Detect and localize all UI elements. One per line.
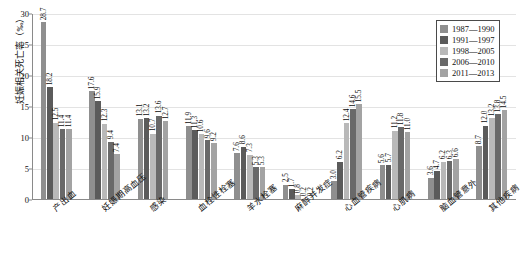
y-axis-line <box>32 14 33 200</box>
bar: 11.9 <box>186 126 192 200</box>
bar-value-label: 15.9 <box>94 87 101 100</box>
bar: 13.6 <box>156 116 162 200</box>
y-tick-label: 15 <box>21 102 33 112</box>
legend-label: 1991—1997 <box>452 36 495 45</box>
bar: 11.8 <box>398 127 404 200</box>
bar: 6.2 <box>337 162 343 200</box>
bar: 13.2 <box>489 118 495 200</box>
legend-item: 2006—2010 <box>440 57 495 67</box>
bar: 7.6 <box>234 153 240 200</box>
bar: 28.7 <box>41 22 47 200</box>
legend-item: 1991—1997 <box>440 35 495 45</box>
bar-group: 28.718.212.511.411.4 <box>32 14 80 200</box>
bar: 13.8 <box>495 114 501 200</box>
bar-group: 7.68.67.35.35.3 <box>226 14 274 200</box>
bar-group: 2.51.70.80.20.2 <box>274 14 322 200</box>
bar: 5.7 <box>386 165 392 200</box>
legend-item: 1987—1990 <box>440 24 495 34</box>
bar-value-label: 13.2 <box>142 103 149 116</box>
y-tick-label: 10 <box>21 133 33 143</box>
legend-item: 2011—2013 <box>440 68 495 78</box>
y-tick-label: 0 <box>25 195 32 205</box>
bar-group: 17.615.912.39.47.4 <box>80 14 128 200</box>
bar: 4.7 <box>434 171 440 200</box>
bar-value-label: 14.5 <box>500 95 507 108</box>
bar: 8.6 <box>241 147 247 200</box>
legend-label: 1998—2005 <box>452 47 495 56</box>
y-tick-label: 30 <box>21 9 33 19</box>
legend-swatch <box>440 36 448 44</box>
bar-group: 11.911.310.69.69.2 <box>177 14 225 200</box>
legend-item: 1998—2005 <box>440 46 495 56</box>
bar-value-label: 15.5 <box>355 89 362 102</box>
bar-value-label: 6.2 <box>336 150 343 159</box>
bar-value-label: 12.7 <box>161 106 168 119</box>
bar: 12.7 <box>163 121 169 200</box>
bar-value-label: 11.0 <box>403 117 410 130</box>
bar: 3.6 <box>428 178 434 200</box>
bar-value-label: 10.7 <box>149 119 156 132</box>
legend-swatch <box>440 58 448 66</box>
bar: 14.6 <box>350 109 356 200</box>
bar-value-label: 5.7 <box>384 154 391 163</box>
legend-label: 1987—1990 <box>452 25 495 34</box>
bar-value-label: 6.6 <box>452 148 459 157</box>
bar: 10.7 <box>150 134 156 200</box>
bar-value-label: 8.7 <box>475 135 482 144</box>
bar: 18.2 <box>47 87 53 200</box>
bar-value-label: 11.4 <box>64 115 71 128</box>
bar: 17.6 <box>89 91 95 200</box>
y-tick-label: 5 <box>25 164 32 174</box>
bar-group: 5.65.711.211.811.0 <box>371 14 419 200</box>
bar-value-label: 4.7 <box>433 160 440 169</box>
bar: 11.2 <box>392 131 398 200</box>
bar-value-label: 9.4 <box>107 131 114 140</box>
bar: 10.6 <box>199 134 205 200</box>
y-tick-label: 25 <box>21 40 33 50</box>
bar: 12.4 <box>344 123 350 200</box>
bar: 13.1 <box>138 119 144 200</box>
y-axis-title: 妊娠相关死亡率（‰） <box>13 0 26 134</box>
bar: 12.5 <box>53 123 59 201</box>
legend-label: 2006—2010 <box>452 58 495 67</box>
legend-swatch <box>440 69 448 77</box>
bar-value-label: 5.3 <box>258 156 265 165</box>
bar-group: 3.06.212.414.615.5 <box>322 14 370 200</box>
bar-value-label: 7.4 <box>113 143 120 152</box>
bar-value-label: 28.7 <box>39 7 46 20</box>
bar: 12.0 <box>483 126 489 200</box>
bar: 6.2 <box>441 162 447 200</box>
bar-value-label: 7.3 <box>245 144 252 153</box>
bar-value-label: 12.3 <box>100 109 107 122</box>
y-tick-label: 20 <box>21 71 33 81</box>
bar: 11.3 <box>192 130 198 200</box>
bar: 11.4 <box>60 129 66 200</box>
bar-value-label: 9.2 <box>210 132 217 141</box>
bar-value-label: 12.4 <box>342 108 349 121</box>
pregnancy-mortality-bar-chart: 妊娠相关死亡率（‰） 28.718.212.511.411.417.615.91… <box>0 0 526 272</box>
legend-swatch <box>440 25 448 33</box>
bar-value-label: 3.0 <box>330 170 337 179</box>
bar: 8.7 <box>476 146 482 200</box>
bar-value-label: 18.2 <box>46 72 53 85</box>
legend-swatch <box>440 47 448 55</box>
legend: 1987—19901991—19971998—20052006—20102011… <box>436 20 500 82</box>
legend-label: 2011—2013 <box>452 69 494 78</box>
